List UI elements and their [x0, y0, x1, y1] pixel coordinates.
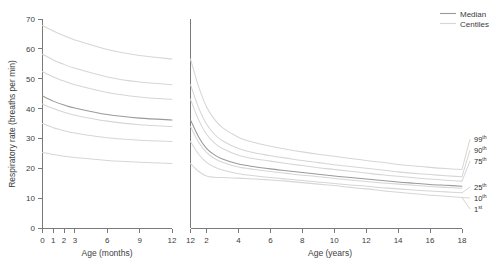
y-axis: 010203040506070: [26, 15, 42, 233]
centile-curve-infant: [43, 124, 173, 142]
right-x-tick-label: 18: [458, 236, 467, 245]
centile-curve-infant: [43, 26, 173, 59]
percentile-leader-line: [462, 198, 470, 209]
y-tick-label: 10: [26, 194, 35, 203]
right-x-ticks: 1224681012141618: [186, 229, 467, 246]
right-x-tick-label: 10: [330, 236, 339, 245]
percentile-value: 75: [474, 157, 482, 166]
y-tick-label: 60: [26, 45, 35, 54]
percentile-label: 1st: [474, 204, 483, 214]
percentile-suffix: th: [482, 193, 486, 199]
left-x-ticks: 01236912: [40, 229, 177, 246]
percentile-annotations: 99th90th75th25th10th1st: [462, 134, 487, 214]
right-x-tick-label: 6: [268, 236, 273, 245]
right-centile-curves: [191, 59, 463, 198]
legend: Median Centiles: [440, 10, 489, 29]
centile-curve-infant: [43, 152, 173, 163]
chart-svg: Respiratory rate (breaths per min) 01020…: [0, 0, 504, 265]
median-curve-infant: [43, 96, 173, 120]
percentile-label: 25th: [474, 182, 487, 192]
percentile-value: 25: [474, 183, 482, 192]
percentile-suffix: th: [482, 156, 486, 162]
percentile-value: 10: [474, 194, 482, 203]
centile-curve-childhood: [191, 126, 463, 188]
right-x-tick-label: 12: [362, 236, 371, 245]
right-x-tick-label: 16: [426, 236, 435, 245]
percentile-label: 90th: [474, 145, 487, 155]
respiratory-rate-centile-chart: Respiratory rate (breaths per min) 01020…: [0, 0, 504, 265]
right-x-tick-label: 8: [300, 236, 305, 245]
right-x-tick-label: 4: [236, 236, 241, 245]
percentile-leader-line: [462, 187, 470, 193]
percentile-suffix: th: [482, 134, 486, 140]
right-x-axis-title: Age (years): [308, 248, 352, 258]
centile-curve-childhood: [191, 85, 463, 177]
left-x-tick-label: 2: [62, 236, 67, 245]
percentile-label: 99th: [474, 134, 487, 144]
percentile-suffix: th: [482, 145, 486, 151]
y-tick-label: 20: [26, 164, 35, 173]
percentile-suffix: th: [482, 182, 486, 188]
y-tick-label: 70: [26, 15, 35, 24]
percentile-label: 75th: [474, 156, 487, 166]
right-x-tick-label: 12: [186, 236, 195, 245]
legend-label-median: Median: [460, 10, 486, 19]
percentile-suffix: st: [478, 204, 483, 210]
left-x-tick-label: 6: [105, 236, 110, 245]
percentile-label: 10th: [474, 193, 487, 203]
panel-infant: 01236912 Age (months): [40, 26, 177, 258]
left-x-tick-label: 1: [51, 236, 56, 245]
right-x-tick-label: 14: [394, 236, 403, 245]
left-x-axis-title: Age (months): [81, 248, 132, 258]
centile-curve-childhood: [191, 99, 463, 181]
left-x-tick-label: 9: [137, 236, 142, 245]
y-axis-title-text: Respiratory rate (breaths per min): [7, 60, 17, 188]
y-tick-label: 40: [26, 105, 35, 114]
left-x-tick-label: 3: [73, 236, 78, 245]
y-tick-label: 0: [31, 224, 36, 233]
panel-childhood: 1224681012141618 Age (years): [186, 19, 467, 258]
y-tick-label: 50: [26, 75, 35, 84]
y-axis-title: Respiratory rate (breaths per min): [7, 60, 17, 188]
left-x-tick-label: 0: [40, 236, 45, 245]
legend-label-centiles: Centiles: [460, 20, 489, 29]
percentile-value: 90: [474, 146, 482, 155]
percentile-value: 99: [474, 135, 482, 144]
left-centile-curves: [43, 26, 173, 164]
right-x-tick-label: 2: [204, 236, 209, 245]
y-tick-label: 30: [26, 134, 35, 143]
centile-curve-infant: [43, 104, 173, 126]
left-x-tick-label: 12: [168, 236, 177, 245]
centile-curve-infant: [43, 72, 173, 100]
